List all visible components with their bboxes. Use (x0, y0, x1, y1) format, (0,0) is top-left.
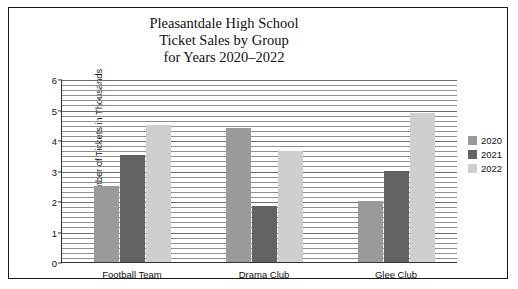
x-axis-tick-label: Drama Club (204, 269, 324, 280)
y-axis-tick-label: 4 (52, 136, 57, 147)
legend-swatch-icon (468, 164, 477, 173)
legend-item: 2021 (468, 147, 502, 161)
bar (252, 206, 277, 262)
y-axis-tick-label: 2 (52, 197, 57, 208)
bars-layer: Football TeamDrama ClubGlee Club (62, 80, 457, 262)
x-axis-tick-label: Glee Club (336, 269, 456, 280)
y-axis-tick-label: 6 (52, 75, 57, 86)
y-axis-tick-label: 5 (52, 105, 57, 116)
y-axis-tick-label: 3 (52, 166, 57, 177)
bar (384, 171, 409, 263)
legend-item: 2022 (468, 161, 502, 175)
legend-item: 2020 (468, 133, 502, 147)
bar-group: Drama Club (226, 80, 303, 262)
legend-item-label: 2022 (481, 163, 502, 174)
bar (358, 201, 383, 262)
chart-legend: 202020212022 (468, 133, 502, 175)
legend-swatch-icon (468, 136, 477, 145)
legend-item-label: 2020 (481, 135, 502, 146)
chart-title-line-3: for Years 2020–2022 (9, 49, 439, 66)
y-axis-tick-label: 0 (52, 258, 57, 269)
bar-group: Glee Club (358, 80, 435, 262)
y-axis-tick-label: 1 (52, 227, 57, 238)
plot-area: Number of Tickets in Thousands 0123456 F… (61, 80, 457, 263)
y-axis-tick-mark (58, 262, 62, 263)
chart-title-line-2: Ticket Sales by Group (9, 32, 439, 49)
legend-item-label: 2021 (481, 149, 502, 160)
x-axis-tick-label: Football Team (72, 269, 192, 280)
bar (94, 186, 119, 262)
chart-title-line-1: Pleasantdale High School (9, 15, 439, 32)
bar (120, 155, 145, 262)
chart-frame: Pleasantdale High School Ticket Sales by… (8, 7, 508, 279)
legend-swatch-icon (468, 150, 477, 159)
bar (410, 113, 435, 262)
chart-title: Pleasantdale High School Ticket Sales by… (9, 15, 439, 66)
bar (278, 151, 303, 262)
bar (146, 125, 171, 262)
bar-group: Football Team (94, 80, 171, 262)
bar (226, 128, 251, 262)
